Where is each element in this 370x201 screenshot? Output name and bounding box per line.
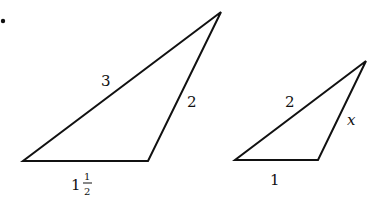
- small-triangle-long-side-label: 2: [285, 93, 295, 111]
- large-triangle-outline: [23, 12, 221, 161]
- large-triangle-base-frac-den: 2: [84, 186, 90, 197]
- large-triangle-right-side-label: 2: [187, 93, 197, 111]
- large-triangle-base-whole: 1: [71, 176, 81, 194]
- similar-triangles-figure: 3 2 1 1 2 2 x 1: [0, 0, 370, 201]
- large-triangle: 3 2 1 1 2: [23, 12, 221, 197]
- large-triangle-long-side-label: 3: [101, 72, 111, 90]
- bullet-marker: [1, 19, 5, 23]
- small-triangle-right-side-label: x: [347, 111, 356, 129]
- small-triangle-base-label: 1: [270, 171, 280, 189]
- large-triangle-base-frac-num: 1: [84, 171, 90, 182]
- small-triangle: 2 x 1: [235, 61, 366, 189]
